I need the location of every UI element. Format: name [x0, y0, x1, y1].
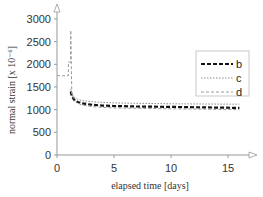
x-tick-label: 15 — [222, 162, 234, 174]
legend-label-d: d — [236, 86, 242, 98]
legend-label-c: c — [236, 72, 242, 84]
y-axis-arrow-icon — [54, 4, 60, 12]
x-axis — [57, 152, 257, 158]
y-tick-label: 1000 — [27, 104, 51, 116]
x-tick-label: 10 — [165, 162, 177, 174]
y-tick-label: 2500 — [27, 36, 51, 48]
x-axis-arrow-icon — [249, 152, 257, 158]
x-tick-label: 5 — [111, 162, 117, 174]
x-ticks: 051015 — [54, 155, 234, 174]
y-tick-label: 0 — [45, 149, 51, 161]
strain-chart: 050010001500200025003000 051015 elapsed … — [0, 0, 263, 197]
y-tick-label: 2000 — [27, 58, 51, 70]
y-tick-label: 1500 — [27, 81, 51, 93]
y-tick-label: 500 — [33, 126, 51, 138]
x-axis-title: elapsed time [days] — [111, 180, 189, 191]
legend-label-b: b — [236, 58, 242, 70]
y-tick-label: 3000 — [27, 13, 51, 25]
y-ticks: 050010001500200025003000 — [27, 13, 57, 161]
legend: bcd — [196, 51, 249, 98]
x-tick-label: 0 — [54, 162, 60, 174]
y-axis-title: normal strain [x 10⁻⁶] — [6, 46, 17, 134]
